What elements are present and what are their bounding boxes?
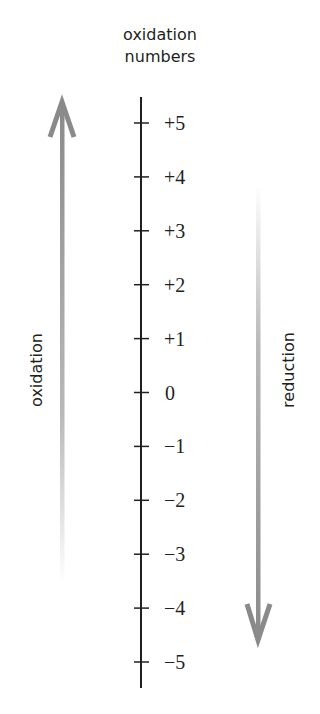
tick-label: +5: [164, 112, 185, 134]
tick-label: 0: [165, 382, 175, 404]
oxidation-label: oxidation: [27, 333, 46, 407]
tick-label: +1: [164, 328, 185, 350]
reduction-label: reduction: [279, 332, 298, 408]
tick-label: −4: [164, 597, 185, 619]
tick-label: −2: [164, 489, 185, 511]
tick-label: −1: [164, 435, 185, 457]
oxidation-number-diagram: +5+4+3+2+10−1−2−3−4−5 oxidation reductio…: [0, 0, 320, 714]
oxidation-arrow: [50, 102, 74, 583]
tick-label: +4: [164, 166, 185, 188]
tick-label: −3: [164, 543, 185, 565]
tick-label: +3: [164, 220, 185, 242]
tick-label: −5: [164, 651, 185, 673]
tick-label: +2: [164, 274, 185, 296]
reduction-arrow: [247, 185, 270, 640]
